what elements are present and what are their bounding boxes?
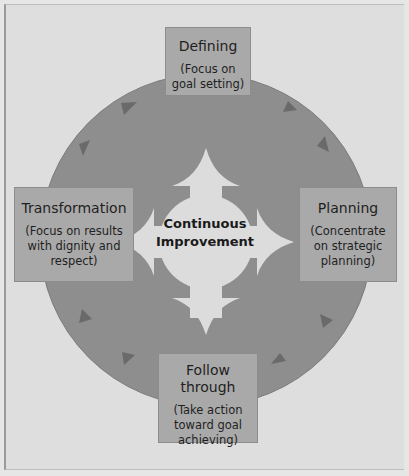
desc-line: (Focus on — [169, 62, 247, 77]
stage-title: Follow through — [159, 362, 257, 396]
stage-description: (Take action toward goal achieving) — [159, 403, 257, 448]
stage-box-planning: Planning (Concentrate on strategic plann… — [299, 187, 397, 282]
desc-line: goal setting) — [169, 77, 247, 92]
center-label: Continuous Improvement — [150, 215, 260, 251]
stage-title: Transformation — [15, 200, 133, 217]
stage-description: (Focus on goal setting) — [166, 62, 250, 92]
stage-description: (Concentrate on strategic planning) — [300, 224, 396, 269]
desc-line: toward goal — [162, 418, 254, 433]
stage-box-follow-through: Follow through (Take action toward goal … — [158, 353, 258, 443]
desc-line: with dignity and — [18, 239, 130, 254]
center-label-line2: Improvement — [150, 233, 260, 251]
desc-line: achieving) — [162, 433, 254, 448]
stage-title: Defining — [166, 38, 250, 55]
center-label-line1: Continuous — [150, 215, 260, 233]
stage-box-transformation: Transformation (Focus on results with di… — [14, 187, 134, 282]
desc-line: on strategic — [303, 239, 393, 254]
desc-line: planning) — [303, 254, 393, 269]
desc-line: respect) — [18, 254, 130, 269]
stage-description: (Focus on results with dignity and respe… — [15, 224, 133, 269]
stage-box-defining: Defining (Focus on goal setting) — [165, 27, 251, 96]
desc-line: (Focus on results — [18, 224, 130, 239]
desc-line: (Concentrate — [303, 224, 393, 239]
desc-line: (Take action — [162, 403, 254, 418]
stage-title: Planning — [300, 200, 396, 217]
